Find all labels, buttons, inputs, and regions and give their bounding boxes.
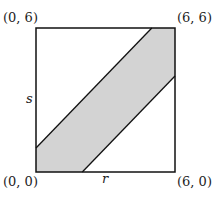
corner-label-bottom-right: (6, 0): [177, 174, 212, 189]
diagram-canvas: [0, 0, 221, 201]
corner-label-bottom-left: (0, 0): [3, 174, 38, 189]
corner-label-top-left: (0, 6): [3, 10, 38, 25]
shaded-band: [36, 28, 175, 172]
corner-label-top-right: (6, 6): [177, 10, 212, 25]
axis-label-r: r: [102, 171, 108, 186]
axis-label-s: s: [26, 91, 33, 106]
